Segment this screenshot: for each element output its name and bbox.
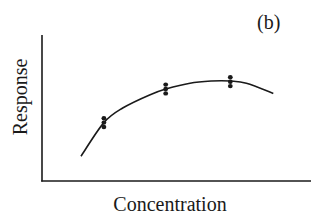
data-points <box>102 75 233 129</box>
x-axis-label: Concentration <box>0 192 322 216</box>
data-point <box>163 82 168 86</box>
data-point <box>163 91 168 95</box>
data-point <box>163 87 168 91</box>
axes <box>41 35 311 182</box>
panel-label: (b) <box>257 11 280 33</box>
data-point <box>228 84 233 88</box>
data-point <box>102 125 107 129</box>
data-point <box>228 80 233 84</box>
data-point <box>102 120 107 124</box>
data-point <box>102 116 107 120</box>
y-axis-label: Response <box>9 59 31 136</box>
data-point <box>228 75 233 79</box>
chart-canvas <box>0 0 322 222</box>
fitted-curve <box>81 81 273 157</box>
